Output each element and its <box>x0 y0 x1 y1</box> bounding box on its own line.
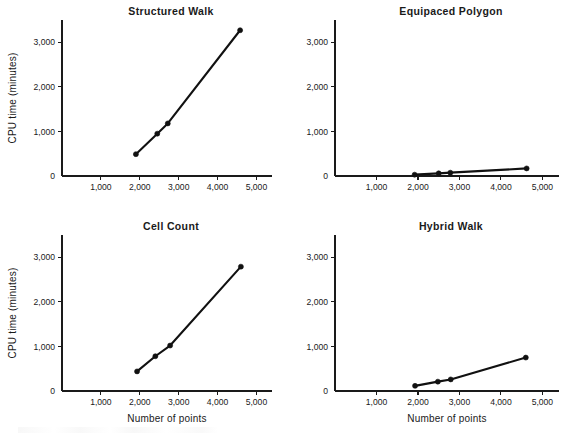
x-tick-label: 3,000 <box>449 397 471 407</box>
data-point-marker <box>413 383 418 388</box>
x-tick-label: 4,000 <box>207 182 229 192</box>
data-series-line <box>136 30 240 154</box>
x-tick-label: 5,000 <box>246 397 268 407</box>
data-point-marker <box>155 131 160 136</box>
chart-panel-structured-walk: Structured Walk01,0002,0003,0001,0002,00… <box>0 0 286 219</box>
data-point-marker <box>436 171 441 176</box>
x-tick-label: 5,000 <box>246 182 268 192</box>
y-tick-label: 0 <box>323 386 328 396</box>
data-point-marker <box>153 354 158 359</box>
data-point-marker <box>435 379 440 384</box>
y-tick-label: 2,000 <box>33 82 55 92</box>
data-point-marker <box>523 355 528 360</box>
x-tick-label: 4,000 <box>207 397 229 407</box>
x-tick-label: 4,000 <box>490 182 512 192</box>
data-series-line <box>415 168 527 174</box>
chart-panel-hybrid-walk: Hybrid Walk01,0002,0003,0001,0002,0003,0… <box>287 215 573 434</box>
y-tick-label: 1,000 <box>306 342 328 352</box>
x-tick-label: 5,000 <box>532 397 554 407</box>
y-tick-label: 3,000 <box>306 252 328 262</box>
x-tick-label: 2,000 <box>129 397 151 407</box>
x-tick-label: 1,000 <box>366 397 388 407</box>
x-tick-label: 2,000 <box>129 182 151 192</box>
x-tick-label: 3,000 <box>168 182 190 192</box>
y-tick-label: 1,000 <box>306 127 328 137</box>
y-tick-label: 2,000 <box>33 297 55 307</box>
y-tick-label: 1,000 <box>33 342 55 352</box>
chart-title-cell-count: Cell Count <box>143 220 199 232</box>
x-tick-label: 1,000 <box>366 182 388 192</box>
y-tick-label: 2,000 <box>306 297 328 307</box>
data-point-marker <box>412 172 417 177</box>
data-point-marker <box>448 377 453 382</box>
data-point-marker <box>168 343 173 348</box>
chart-svg-equipaced-polygon: Equipaced Polygon01,0002,0003,0001,0002,… <box>287 0 573 219</box>
data-point-marker <box>165 121 170 126</box>
x-tick-label: 2,000 <box>407 182 429 192</box>
chart-title-equipaced-polygon: Equipaced Polygon <box>399 5 502 17</box>
x-tick-label: 1,000 <box>90 182 112 192</box>
x-tick-label: 3,000 <box>449 182 471 192</box>
chart-panel-cell-count: Cell Count01,0002,0003,0001,0002,0003,00… <box>0 215 286 434</box>
data-point-marker <box>524 166 529 171</box>
chart-panel-equipaced-polygon: Equipaced Polygon01,0002,0003,0001,0002,… <box>287 0 573 219</box>
x-tick-label: 2,000 <box>407 397 429 407</box>
data-point-marker <box>238 28 243 33</box>
y-axis-title: CPU time (minutes) <box>7 268 18 359</box>
data-point-marker <box>133 152 138 157</box>
x-tick-label: 5,000 <box>532 182 554 192</box>
chart-svg-structured-walk: Structured Walk01,0002,0003,0001,0002,00… <box>0 0 286 219</box>
data-series-line <box>415 358 526 386</box>
y-tick-label: 0 <box>323 171 328 181</box>
y-tick-label: 3,000 <box>33 252 55 262</box>
data-point-marker <box>448 170 453 175</box>
y-tick-label: 2,000 <box>306 82 328 92</box>
y-tick-label: 3,000 <box>306 37 328 47</box>
chart-svg-hybrid-walk: Hybrid Walk01,0002,0003,0001,0002,0003,0… <box>287 215 573 434</box>
data-point-marker <box>238 264 243 269</box>
x-axis-title: Number of points <box>127 413 206 424</box>
chart-title-hybrid-walk: Hybrid Walk <box>419 220 483 232</box>
data-point-marker <box>135 369 140 374</box>
x-tick-label: 3,000 <box>168 397 190 407</box>
chart-svg-cell-count: Cell Count01,0002,0003,0001,0002,0003,00… <box>0 215 286 434</box>
y-tick-label: 0 <box>50 386 55 396</box>
x-tick-label: 4,000 <box>490 397 512 407</box>
y-tick-label: 3,000 <box>33 37 55 47</box>
y-tick-label: 1,000 <box>33 127 55 137</box>
y-tick-label: 0 <box>50 171 55 181</box>
y-axis-title: CPU time (minutes) <box>7 53 18 144</box>
x-axis-title: Number of points <box>407 413 486 424</box>
x-tick-label: 1,000 <box>90 397 112 407</box>
figure-multipanel-cpu-time: Structured Walk01,0002,0003,0001,0002,00… <box>0 0 573 438</box>
chart-title-structured-walk: Structured Walk <box>128 5 213 17</box>
